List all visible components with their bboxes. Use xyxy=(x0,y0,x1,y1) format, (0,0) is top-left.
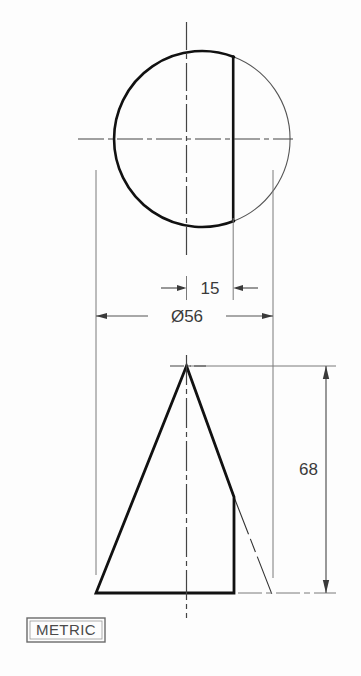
metric-note-label: METRIC xyxy=(36,621,96,638)
dim-68-label: 68 xyxy=(299,460,318,479)
dim-15-label: 15 xyxy=(201,279,220,298)
engineering-drawing-canvas: 15 Ø56 68 xyxy=(0,0,361,676)
drawing-background xyxy=(0,0,361,676)
dim-d56-label: Ø56 xyxy=(171,307,203,326)
